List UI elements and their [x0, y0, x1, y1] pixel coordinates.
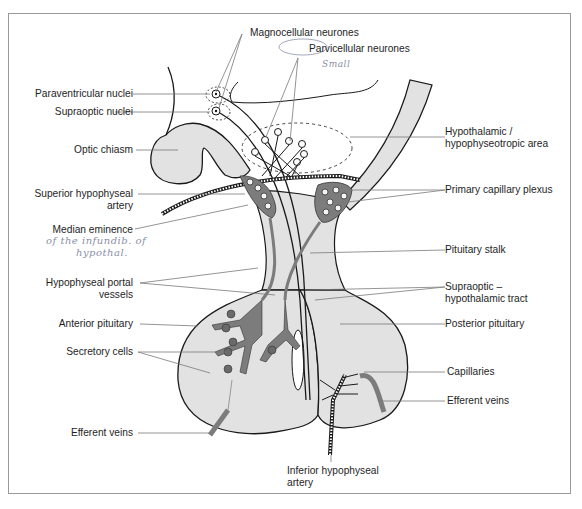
- parvicellular-neurone-cells: [252, 129, 308, 166]
- label-supraoptic-nuclei: Supraoptic nuclei: [55, 106, 133, 118]
- third-ventricle-line: [230, 80, 378, 103]
- label-inferior-hypophyseal-artery: Inferior hypophyseal artery: [287, 465, 379, 489]
- label-secretory-cells: Secretory cells: [66, 346, 133, 358]
- label-hypothalamic-area-line1: Hypothalamic /: [445, 126, 548, 138]
- label-pituitary-stalk: Pituitary stalk: [445, 244, 506, 256]
- label-hypothalamic-area: Hypothalamic / hypophyseotropic area: [445, 126, 548, 150]
- label-supraoptic-tract-line1: Supraoptic –: [445, 281, 528, 293]
- label-paraventricular-nuclei: Paraventricular nuclei: [35, 88, 133, 100]
- handwritten-note-infundibulum: of the infundib. of: [46, 235, 146, 246]
- label-superior-hypophyseal-artery: Superior hypophyseal artery: [34, 188, 133, 212]
- label-inferior-artery-line1: Inferior hypophyseal: [287, 465, 379, 477]
- label-magnocellular-neurones: Magnocellular neurones: [250, 27, 359, 39]
- label-portal-vessels-line1: Hypophyseal portal: [46, 277, 133, 289]
- label-posterior-pituitary: Posterior pituitary: [445, 318, 524, 330]
- label-supraoptic-hypothalamic-tract: Supraoptic – hypothalamic tract: [445, 281, 528, 305]
- label-anterior-pituitary: Anterior pituitary: [59, 318, 133, 330]
- handwritten-note-small: Small: [322, 59, 350, 69]
- handwritten-note-hypothalamus: hypothal.: [76, 247, 128, 258]
- label-primary-capillary-plexus: Primary capillary plexus: [445, 184, 553, 196]
- optic-chiasm-shape: [151, 123, 250, 183]
- label-superior-artery-line1: Superior hypophyseal: [34, 188, 133, 200]
- label-efferent-veins-right: Efferent veins: [447, 395, 509, 407]
- hypothalamus-outline: [166, 67, 174, 135]
- label-hypothalamic-area-line2: hypophyseotropic area: [445, 138, 548, 150]
- label-supraoptic-tract-line2: hypothalamic tract: [445, 293, 528, 305]
- label-superior-artery-line2: artery: [34, 200, 133, 212]
- label-parvicellular-neurones: Parvicellular neurones: [309, 43, 410, 55]
- label-inferior-artery-line2: artery: [287, 477, 379, 489]
- label-portal-vessels-line2: vessels: [46, 289, 133, 301]
- label-efferent-veins-left: Efferent veins: [71, 427, 133, 439]
- posterior-wall: [340, 80, 432, 210]
- label-optic-chiasm: Optic chiasm: [74, 144, 133, 156]
- label-capillaries: Capillaries: [447, 366, 495, 378]
- label-hypophyseal-portal-vessels: Hypophyseal portal vessels: [46, 277, 133, 301]
